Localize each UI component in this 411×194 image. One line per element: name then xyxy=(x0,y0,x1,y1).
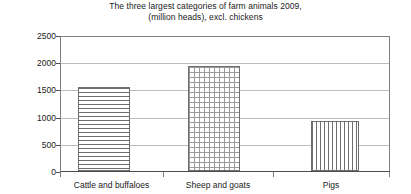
gridline-2000 xyxy=(61,63,389,64)
bar-chart: The three largest categories of farm ani… xyxy=(0,0,411,194)
y-tick-label-1000: 1000 xyxy=(4,113,56,123)
x-tick-mark-1 xyxy=(163,172,164,177)
y-tick-label-1500: 1500 xyxy=(4,85,56,95)
y-axis: 2500 2000 1500 1000 500 0 xyxy=(0,36,56,172)
x-tick-label-sheep-and-goats: Sheep and goats xyxy=(163,180,273,190)
y-tick-label-2500: 2500 xyxy=(4,31,56,41)
y-tick-label-0: 0 xyxy=(4,167,56,177)
y-tick-label-500: 500 xyxy=(4,140,56,150)
x-tick-label-pigs: Pigs xyxy=(273,180,389,190)
bar-cattle-and-buffaloes xyxy=(78,87,130,171)
y-tick-label-2000: 2000 xyxy=(4,58,56,68)
chart-title-line-2: (million heads), excl. chickens xyxy=(0,12,411,23)
chart-title-line-1: The three largest categories of farm ani… xyxy=(0,1,411,12)
bar-sheep-and-goats xyxy=(188,66,240,171)
x-tick-mark-end xyxy=(389,172,390,177)
x-tick-mark-start xyxy=(60,172,61,177)
x-tick-mark-2 xyxy=(273,172,274,177)
chart-title: The three largest categories of farm ani… xyxy=(0,1,411,23)
plot-area xyxy=(60,36,390,172)
x-tick-label-cattle-and-buffaloes: Cattle and buffaloes xyxy=(60,180,163,190)
bar-pigs xyxy=(311,121,359,171)
